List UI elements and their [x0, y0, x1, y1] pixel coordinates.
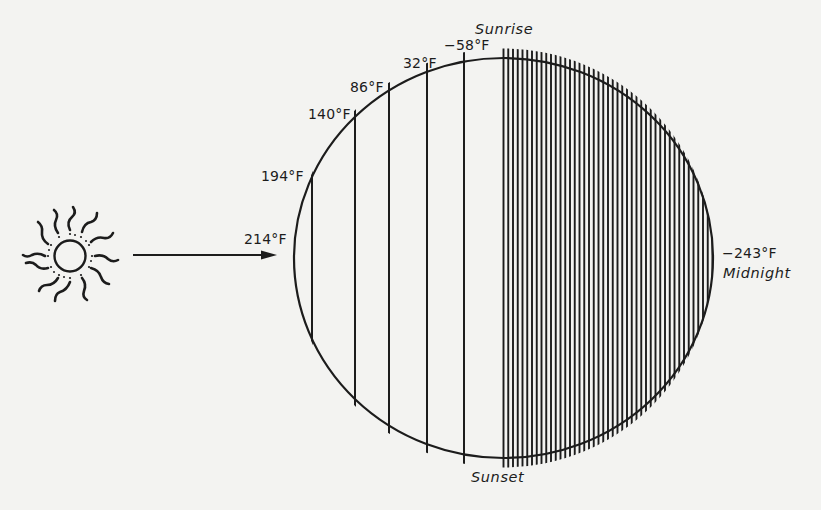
temp-label-214: 214°F: [244, 231, 287, 247]
temp-label-194: 194°F: [261, 168, 304, 184]
moon-temperature-diagram: [0, 0, 821, 510]
sunset-label: Sunset: [471, 469, 524, 485]
moon-disc: [294, 40, 713, 480]
temp-label-140: 140°F: [308, 106, 351, 122]
temp-label-minus58: −58°F: [444, 37, 490, 53]
midnight-label: Midnight: [723, 265, 791, 281]
temp-label-minus243: −243°F: [722, 245, 777, 261]
arrow-right-icon: [133, 251, 277, 260]
night-hatching: [504, 40, 713, 480]
temp-label-86: 86°F: [350, 79, 384, 95]
sun-icon: [23, 207, 118, 301]
sunrise-label: Sunrise: [475, 21, 533, 37]
temp-label-32: 32°F: [403, 55, 437, 71]
